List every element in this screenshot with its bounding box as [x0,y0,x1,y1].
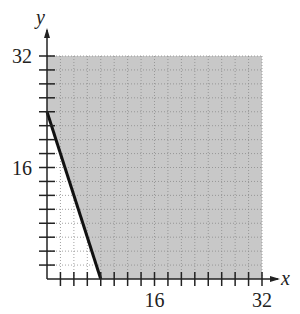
chart: x y 16321632 [0,0,300,314]
x-tick-label: 32 [252,289,272,311]
y-axis-label: y [34,6,45,29]
x-axis-arrow-icon [270,276,280,282]
x-axis-label: x [280,267,290,289]
y-tick-label: 16 [12,157,32,179]
x-tick-label: 16 [145,289,165,311]
y-tick-label: 32 [12,45,32,67]
y-axis-arrow-icon [44,28,50,38]
